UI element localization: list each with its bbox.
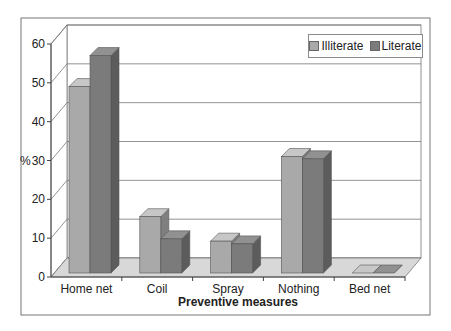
y-tick-label: 50 [32,76,46,90]
x-tick-label: Home net [60,282,113,296]
y-tick-label: 20 [32,192,46,206]
y-tick-label: 40 [32,115,46,129]
bar-literate-nothing [302,151,331,273]
x-tick-label: Spray [212,282,243,296]
bar-literate-home-net [90,48,119,273]
legend-label-illiterate: Illiterate [321,39,363,53]
bar-literate-coil [161,231,190,273]
legend-item-literate: Literate [370,39,422,53]
legend-swatch-illiterate [309,41,319,51]
legend-swatch-literate [370,41,380,51]
y-tick-label: 30 [32,154,46,168]
y-tick-label: 60 [32,37,46,51]
x-axis-label: Preventive measures [178,295,298,309]
y-tick-label: 0 [38,270,45,284]
x-tick-label: Nothing [278,282,319,296]
legend-item-illiterate: Illiterate [309,39,363,53]
chart-legend: Illiterate Literate [308,34,423,58]
y-axis-label: % [20,154,31,168]
x-tick-label: Bed net [349,282,391,296]
x-tick-label: Coil [147,282,168,296]
legend-label-literate: Literate [382,39,422,53]
bar-literate-spray [232,236,261,273]
y-tick-label: 10 [32,231,46,245]
